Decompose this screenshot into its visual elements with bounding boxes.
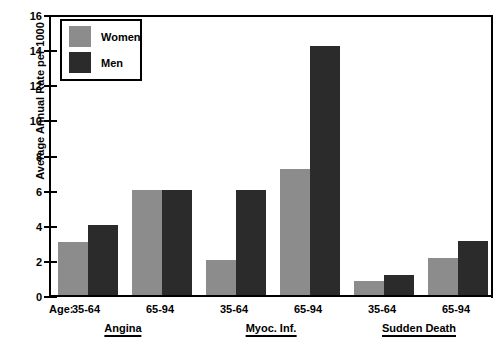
bar-men-1 bbox=[162, 190, 192, 295]
y-tick-label: 2 bbox=[36, 256, 42, 268]
bar-women-0 bbox=[58, 242, 88, 295]
bar-men-5 bbox=[458, 241, 488, 295]
bar-women-3 bbox=[280, 169, 310, 295]
y-tick-label: 16 bbox=[30, 10, 42, 22]
y-tick-mark bbox=[44, 156, 57, 158]
x-age-label-0: 35-64 bbox=[72, 303, 100, 315]
y-tick-label: 14 bbox=[30, 45, 42, 57]
y-tick-mark bbox=[44, 50, 57, 52]
y-tick-mark bbox=[44, 191, 57, 193]
bar-men-0 bbox=[88, 225, 118, 295]
y-tick-label: 10 bbox=[30, 115, 42, 127]
legend-label-men: Men bbox=[101, 57, 123, 69]
y-tick-mark bbox=[44, 226, 57, 228]
legend-item-men: Men bbox=[69, 52, 123, 73]
y-tick-label: 6 bbox=[36, 186, 42, 198]
x-age-label-5: 65-94 bbox=[442, 303, 470, 315]
legend-swatch-women bbox=[69, 26, 91, 47]
y-tick-label: 12 bbox=[30, 80, 42, 92]
y-tick-label: 4 bbox=[36, 221, 42, 233]
bar-women-2 bbox=[206, 260, 236, 295]
bar-men-3 bbox=[310, 46, 340, 295]
bar-chart-figure: Average Annual Rate per 1000 02468101214… bbox=[0, 0, 499, 348]
legend-swatch-men bbox=[69, 52, 91, 73]
chart-legend: Women Men bbox=[60, 19, 142, 81]
y-tick-mark bbox=[44, 296, 57, 298]
y-tick-mark bbox=[44, 120, 57, 122]
x-age-label-4: 35-64 bbox=[368, 303, 396, 315]
bar-men-4 bbox=[384, 275, 414, 295]
x-axis-age-prefix: Age: bbox=[49, 303, 73, 315]
y-tick-mark bbox=[44, 261, 57, 263]
x-age-label-1: 65-94 bbox=[146, 303, 174, 315]
y-tick-mark bbox=[44, 85, 57, 87]
legend-item-women: Women bbox=[69, 26, 141, 47]
bar-men-2 bbox=[236, 190, 266, 295]
x-age-label-2: 35-64 bbox=[220, 303, 248, 315]
x-group-label-2: Sudden Death bbox=[382, 322, 456, 337]
y-tick-label: 0 bbox=[36, 291, 42, 303]
bar-women-4 bbox=[354, 281, 384, 295]
y-tick-mark bbox=[44, 15, 57, 17]
x-group-label-1: Myoc. Inf. bbox=[246, 322, 297, 337]
y-tick-label: 8 bbox=[36, 151, 42, 163]
x-group-label-0: Angina bbox=[104, 322, 141, 337]
legend-label-women: Women bbox=[101, 31, 141, 43]
bar-women-1 bbox=[132, 190, 162, 295]
x-age-label-3: 65-94 bbox=[294, 303, 322, 315]
bar-women-5 bbox=[428, 258, 458, 295]
